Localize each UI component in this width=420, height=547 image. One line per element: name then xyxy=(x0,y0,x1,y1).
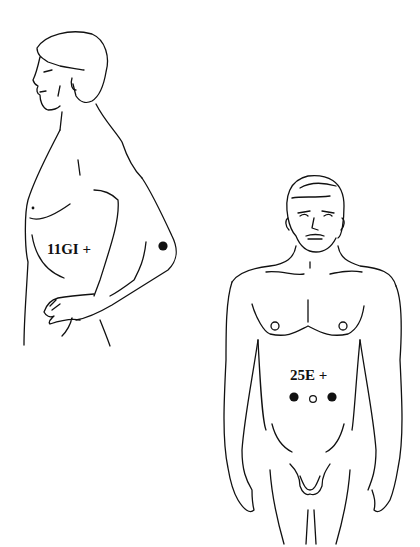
navel-marker xyxy=(310,396,317,403)
front-figure xyxy=(224,176,402,544)
front-ears xyxy=(286,218,344,230)
side-profile-figure xyxy=(24,32,176,346)
front-face-details xyxy=(298,211,334,239)
point-25e-left-marker xyxy=(289,392,298,401)
front-arm-left xyxy=(224,282,258,512)
front-head-outline xyxy=(287,176,344,252)
label-11gi: 11GI + xyxy=(47,241,91,257)
side-nipple xyxy=(32,207,35,210)
front-torso xyxy=(252,300,364,430)
side-head-outline xyxy=(33,32,107,110)
front-nipple-left xyxy=(271,322,279,330)
side-face-details xyxy=(40,70,76,96)
front-nipple-right xyxy=(339,322,347,330)
acupuncture-diagram: 11GI + 25E + xyxy=(0,0,420,547)
point-25e-right-marker xyxy=(327,392,336,401)
front-hips xyxy=(270,424,350,544)
point-11gi-marker xyxy=(158,241,167,250)
label-25e: 25E + xyxy=(290,367,327,383)
front-arm-right xyxy=(360,286,402,512)
side-hand xyxy=(44,294,110,346)
side-neck-back xyxy=(60,104,142,178)
